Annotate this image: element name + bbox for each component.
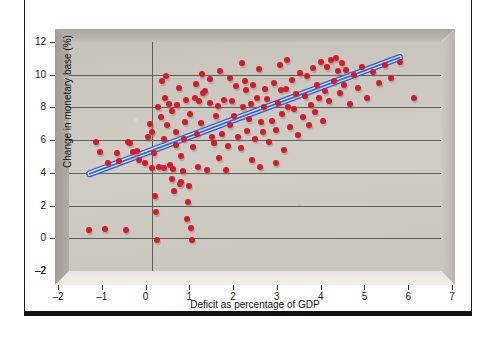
scatter-point [273,127,279,133]
scatter-point [318,59,324,65]
scatter-point [242,78,248,84]
scatter-point [238,145,244,151]
y-tick-label: 12 [22,36,46,47]
scatter-point [275,100,281,106]
scatter-point [176,85,182,91]
scatter-point [231,113,237,119]
scatter-point [308,102,314,108]
scatter-point [149,165,155,171]
scatter-point [271,80,277,86]
scatter-point [219,131,225,137]
x-tick-mark [452,285,453,290]
scatter-point [155,104,161,110]
y-tick-mark [50,238,55,239]
scatter-point [244,128,250,134]
scatter-point [186,183,192,189]
scatter-point [97,149,103,155]
scatter-point [181,136,187,142]
scatter-point [184,216,190,222]
scatter-point [182,119,188,125]
y-tick-label: 2 [22,200,46,211]
scatter-point [223,167,229,173]
scatter-point [153,209,159,215]
scatter-point [190,144,196,150]
plot-bevel-right [441,29,455,285]
scatter-point [364,95,370,101]
y-tick-mark [50,42,55,43]
scatter-point [351,72,357,78]
y-tick-mark [50,173,55,174]
scatter-point [376,80,382,86]
y-tick-mark [50,206,55,207]
scatter-point [173,142,179,148]
scatter-point [246,116,252,122]
y-tick-mark [50,107,55,108]
scatter-point [194,131,200,137]
y-tick-label: 6 [22,134,46,145]
plot-bevel-top [55,29,455,42]
scatter-point [250,82,256,88]
y-tick-label: 4 [22,167,46,178]
plot-bevel-bottom [55,271,455,285]
scatter-point [310,65,316,71]
scatter-point [302,93,308,99]
scatter-point [162,95,168,101]
y-tick-label: 0 [22,232,46,243]
x-axis-label: Deficit as percentage of GDP [55,299,455,310]
y-tick-mark [50,140,55,141]
scatter-point [151,150,157,156]
scatter-point [262,86,268,92]
scatter-point [170,166,176,172]
y-tick-label: 10 [22,69,46,80]
y-tick-label-origin: –2 [22,265,46,276]
scatter-point [300,114,306,120]
scatter-point [147,121,153,127]
scatter-point [215,103,221,109]
scatter-point [152,193,158,199]
x-tick-mark [146,285,147,290]
figure-top-caption [30,0,250,6]
x-tick-mark [277,285,278,290]
scatter-point [261,104,267,110]
scatter-point [278,87,284,93]
y-tick-label: 8 [22,101,46,112]
scatter-point [183,97,189,103]
scatter-point [254,95,260,101]
scatter-point [239,60,245,66]
x-tick-mark [408,285,409,290]
plot-canvas [69,42,441,271]
scatter-point [193,81,199,87]
scatter-point [316,95,322,101]
scatter-point [248,101,254,107]
x-tick-mark [321,285,322,290]
scatter-point [216,155,222,161]
x-tick-mark [233,285,234,290]
x-tick-mark [189,285,190,290]
scatter-point [145,134,151,140]
x-tick-mark [102,285,103,290]
x-tick-mark [364,285,365,290]
scatter-point [225,143,231,149]
scatter-point [169,176,175,182]
scatter-point [93,139,99,145]
scatter-point [324,64,330,70]
trendline [69,42,441,271]
scatter-point [281,147,287,153]
scatter-point [209,134,215,140]
scatter-point [154,237,160,243]
figure-border-bottom [24,311,472,316]
figure-border-right [471,0,472,313]
figure-panel: –2024681012–2 –2–101234567 Change in mon… [0,0,490,347]
scatter-point [252,136,258,142]
scatter-point [337,90,343,96]
scatter-point [180,168,186,174]
scatter-point [279,111,285,117]
scatter-point [134,148,140,154]
scatter-point [320,118,326,124]
scatter-point [127,140,133,146]
y-axis-label: Change in monetary base (%) [62,7,73,197]
scatter-point [411,95,417,101]
y-tick-mark [50,75,55,76]
scatter-point [269,118,275,124]
scatter-point [178,153,184,159]
